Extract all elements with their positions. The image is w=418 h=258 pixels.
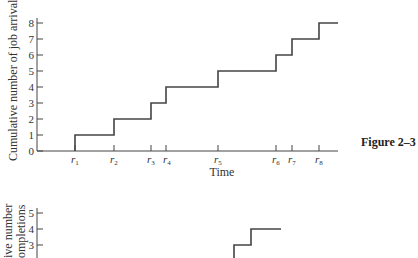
arrivals-step-line	[75, 23, 338, 151]
y-tick-label: 5	[29, 207, 35, 219]
y-tick-label: 6	[29, 49, 35, 61]
y-tick-label: 1	[29, 129, 35, 141]
figure-canvas: Cumulative number of job arrivals 0 1 2 …	[0, 0, 418, 258]
figure-label: Figure 2–3	[361, 135, 416, 149]
y-tick-label: 4	[29, 81, 35, 93]
arrivals-chart: Cumulative number of job arrivals 0 1 2 …	[6, 0, 416, 179]
x-tick-label-r8: r8	[315, 153, 323, 167]
x-ticks	[75, 145, 319, 151]
y-axis-label-line1: ive number	[1, 204, 15, 258]
y-tick-labels: 5 4 3	[29, 207, 35, 251]
x-tick-label-r2: r2	[110, 153, 118, 167]
x-tick-label-r1: r1	[71, 153, 79, 167]
y-tick-label: 3	[29, 97, 35, 109]
y-axis-label-line2: ompletions	[14, 204, 28, 258]
y-ticks	[37, 23, 43, 151]
y-tick-label: 7	[29, 33, 35, 45]
y-tick-label: 2	[29, 113, 35, 125]
x-axis-label: Time	[210, 165, 235, 179]
completions-chart: ive number ompletions 5 4 3	[1, 204, 281, 258]
y-ticks	[37, 213, 43, 245]
x-tick-label-r7: r7	[288, 153, 296, 167]
x-tick-label-r3: r3	[147, 153, 155, 167]
y-tick-label: 8	[29, 17, 35, 29]
y-tick-label: 3	[29, 239, 35, 251]
y-axis-label: Cumulative number of job arrivals	[6, 0, 20, 161]
y-tick-label: 5	[29, 65, 35, 77]
x-tick-label-r4: r4	[163, 153, 171, 167]
x-tick-labels: r1 r2 r3 r4 r5 r6 r7 r8	[71, 153, 323, 167]
x-tick-label-r6: r6	[272, 153, 280, 167]
y-tick-label: 0	[29, 145, 35, 157]
completions-step-line	[234, 229, 281, 258]
y-tick-label: 4	[29, 223, 35, 235]
y-tick-labels: 0 1 2 3 4 5 6 7 8	[29, 17, 35, 157]
